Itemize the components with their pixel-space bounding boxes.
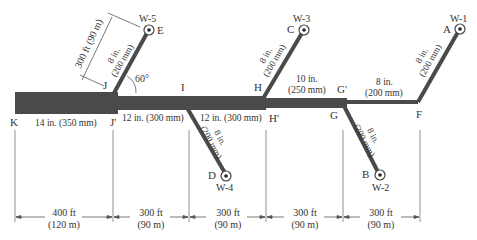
- dimension-ji-m: (90 m): [126, 219, 176, 231]
- dimension-kj: 400 ft (120 m): [38, 207, 90, 231]
- node-j-label: J: [103, 80, 107, 91]
- node-j-prime-label: J': [110, 117, 116, 128]
- pipe-hg-metric: (250 mm): [288, 85, 326, 96]
- dimension-ih-ft: 300 ft: [203, 207, 253, 219]
- dimension-gf: 300 ft (90 m): [356, 207, 406, 231]
- well-icon-d: [221, 171, 231, 181]
- node-h-prime-label: H': [269, 113, 279, 124]
- well-w2-label: W-2: [372, 182, 389, 193]
- node-a-label: A: [443, 24, 451, 35]
- well-icon-a: [455, 24, 465, 34]
- pipe-gf-size: 8 in.: [376, 77, 393, 88]
- dimension-kj-ft: 400 ft: [38, 207, 90, 219]
- node-k-label: K: [10, 117, 18, 128]
- dimension-hg-m: (90 m): [280, 219, 330, 231]
- pipe-kj-label: 14 in. (350 mm): [35, 118, 97, 129]
- angle-label: 60°: [135, 73, 149, 84]
- dimension-hg: 300 ft (90 m): [280, 207, 330, 231]
- pipe-network-diagram: K J J' I H H' G G' F A E C D B W-1 W-2 W…: [0, 0, 477, 240]
- pipe-gf-metric: (200 mm): [365, 88, 403, 99]
- well-w3-label: W-3: [293, 13, 310, 24]
- dimension-ji: 300 ft (90 m): [126, 207, 176, 231]
- dimension-gf-m: (90 m): [356, 219, 406, 231]
- dimension-hg-ft: 300 ft: [280, 207, 330, 219]
- well-icon-b: [375, 170, 385, 180]
- dimension-ih: 300 ft (90 m): [203, 207, 253, 231]
- node-i-label: I: [181, 82, 185, 93]
- well-icon-c: [299, 25, 309, 35]
- dimension-kj-m: (120 m): [38, 219, 90, 231]
- dimension-ih-m: (90 m): [203, 219, 253, 231]
- pipe-h-g: [265, 98, 347, 108]
- pipe-hg-size: 10 in.: [296, 74, 318, 85]
- node-c-label: C: [287, 24, 294, 35]
- node-b-label: B: [362, 169, 369, 180]
- well-w1-label: W-1: [450, 13, 467, 24]
- pipe-ji-label: 12 in. (300 mm): [122, 113, 184, 124]
- dimension-ji-ft: 300 ft: [126, 207, 176, 219]
- node-f-label: F: [416, 109, 422, 120]
- node-g-label: G: [330, 110, 338, 121]
- node-g-prime-label: G': [337, 84, 347, 95]
- node-e-label: E: [157, 25, 164, 36]
- well-w4-label: W-4: [216, 182, 233, 193]
- pipe-k-j: [15, 92, 118, 114]
- node-h-label: H: [254, 82, 262, 93]
- well-w5-label: W-5: [139, 13, 156, 24]
- node-d-label: D: [208, 170, 216, 181]
- dimension-gf-ft: 300 ft: [356, 207, 406, 219]
- well-icon-e: [144, 25, 154, 35]
- pipe-j-h: [118, 96, 266, 110]
